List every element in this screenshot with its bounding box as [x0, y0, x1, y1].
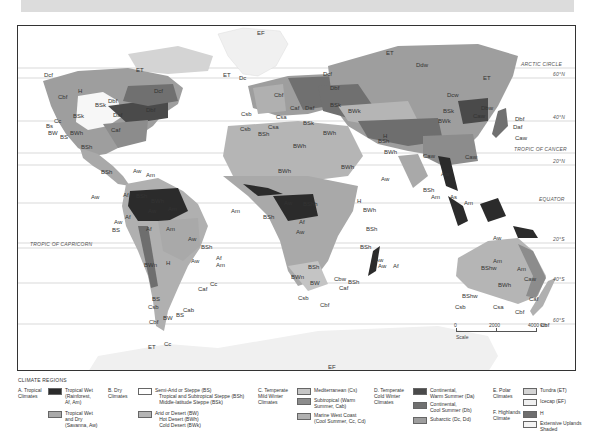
legend-group-label: D. Temperate Cold Winter Climates [374, 387, 404, 405]
climate-code: Caw [473, 113, 485, 119]
legend-item-label: Continental, Cool Summer (Db) [430, 401, 472, 413]
climate-code: Aw [148, 208, 156, 214]
climate-code: Dcf [323, 71, 332, 77]
climate-code: Csa [276, 114, 287, 120]
world-climate-map: ARCTIC CIRCLE60°N40°NTROPIC OF CANCER20°… [17, 25, 576, 371]
climate-code: ET [386, 50, 394, 56]
climate-code: Cab [183, 307, 194, 313]
climate-code: BSh [136, 193, 147, 199]
legend-swatch [523, 388, 537, 395]
legend-item-label: Extensive Uplands Shaded [540, 420, 581, 432]
climate-code: BS [112, 227, 120, 233]
climate-code: Aw [91, 194, 99, 200]
climate-code: BSh [263, 214, 274, 220]
climate-code: ET [483, 75, 491, 81]
climate-code: Csb [240, 126, 251, 132]
legend-item-label: Tropical Wet (Rainforest, Af, Am) [65, 387, 93, 405]
legend-title: CLIMATE REGIONS [18, 377, 67, 383]
legend-group-label: A. Tropical Climates [18, 387, 42, 399]
scale-mark [456, 328, 457, 332]
legend-item-label: Semi-Arid or Steppe (BS) Tropical and Su… [155, 387, 244, 405]
climate-code: BSh [378, 138, 389, 144]
climate-code: BWh [70, 130, 83, 136]
climate-code: Cbf [149, 319, 158, 325]
climate-code: Csa [493, 304, 504, 310]
climate-code: BSh [201, 244, 212, 250]
climate-code: BWh [498, 282, 511, 288]
legend-item-label: Marine West Coast (Cool Summer, Cc, Cd) [314, 412, 366, 424]
legend-item-label: Icecap (EF) [540, 398, 566, 404]
latitude-label: ARCTIC CIRCLE [521, 61, 562, 67]
legend-swatch [297, 398, 311, 405]
scale-mark [496, 328, 497, 332]
climate-code: Af [393, 263, 399, 269]
climate-code: Aw [133, 168, 141, 174]
legend-swatch [413, 402, 427, 409]
legend-swatch [138, 411, 152, 418]
climate-code: BSk [303, 120, 314, 126]
climate-code: BSk [73, 113, 84, 119]
legend-swatch [413, 388, 427, 395]
legend-item-label: Arid or Desert (BW) Hot Desert (BWh) Col… [155, 410, 201, 428]
climate-code: Csb [148, 304, 159, 310]
climate-code: Am [216, 262, 225, 268]
climate-code: Csb [455, 304, 466, 310]
climate-code: Dcf [154, 88, 163, 94]
climate-code: EF [328, 364, 336, 370]
latitude-label: 60°S [553, 317, 565, 323]
climate-code: Am [517, 266, 526, 272]
climate-code: BSk [443, 108, 454, 114]
climate-code: Am [431, 194, 440, 200]
climate-code: Csb [298, 295, 309, 301]
climate-code: BW [310, 280, 320, 286]
climate-code: Csa [268, 124, 279, 130]
climate-code: Aw [441, 171, 449, 177]
legend-swatch [413, 417, 427, 424]
climate-code: Aw [284, 200, 292, 206]
climate-code: BSh [81, 144, 92, 150]
legend-item-label: Continental, Warm Summer (Da) [430, 387, 475, 399]
climate-code: Dbw [481, 105, 493, 111]
climate-code: BWh [384, 149, 397, 155]
climate-code: Daf [113, 112, 122, 118]
climate-code: Caw [515, 135, 527, 141]
climate-code: BShw [462, 293, 478, 299]
climate-code: Cbw [334, 276, 346, 282]
climate-code: Ddw [416, 62, 428, 68]
scale-tick-2000: 2000 [489, 322, 500, 328]
climate-code: BWk [438, 118, 451, 124]
climate-code: H [166, 260, 170, 266]
legend-group-label: E. Polar Climates [493, 387, 512, 399]
climate-code: BW [163, 315, 173, 321]
legend-item-label: Subtropical (Warm Summer, Cab) [314, 397, 355, 409]
legend-swatch [138, 388, 152, 395]
climate-code: Cbf [320, 302, 329, 308]
climate-code: BSh [101, 169, 112, 175]
climate-code: Caf [198, 286, 207, 292]
climate-code: BSk [95, 102, 106, 108]
climate-code: Cc [164, 341, 171, 347]
climate-code: Af [125, 214, 131, 220]
climate-code: BSh [348, 279, 359, 285]
climate-code: Caf [339, 285, 348, 291]
legend-group-label: F. Highlands Climate [493, 409, 521, 421]
climate-code: Af [123, 192, 129, 198]
climate-code: Aw [114, 219, 122, 225]
climate-code: BSh [423, 187, 434, 193]
legend-swatch [297, 413, 311, 420]
climate-code: Am [166, 226, 175, 232]
map-scale: 0 2000 4000 km Scale [452, 322, 552, 342]
scale-label: Scale [456, 334, 469, 340]
climate-code: Caf [290, 105, 299, 111]
climate-code: Am [168, 206, 177, 212]
climate-code: Af [146, 226, 152, 232]
climate-code: Am [464, 200, 473, 206]
legend-swatch [523, 399, 537, 406]
legend-swatch [48, 388, 62, 395]
climate-code: Caf [111, 127, 120, 133]
climate-code: Bs [46, 123, 53, 129]
map-land-shapes [18, 26, 576, 371]
climate-code: BShw [481, 265, 497, 271]
climate-code: BS [152, 296, 160, 302]
climate-code: Aw [378, 263, 386, 269]
